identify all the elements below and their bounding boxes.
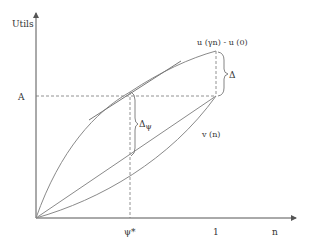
x-tick-one: 1 [213,227,219,237]
upper-curve-label: u (γn) - u (0) [197,38,248,47]
delta-psi-brace [131,92,138,156]
utility-diagram: Utils n A ψ* 1 u (γn) - u (0) v (n) Δ Δψ [0,0,309,245]
y-tick-A: A [17,92,25,102]
x-tick-psi-star: ψ* [124,227,136,237]
x-axis-label: n [272,227,278,237]
chord-line [36,96,216,218]
delta-brace [218,52,228,96]
delta-psi-sub: ψ [146,122,152,131]
lower-curve-label: v (n) [201,130,220,139]
delta-label: Δ [229,70,236,80]
curve-u-gamma-n [36,51,216,218]
y-axis-label: Utils [12,19,34,29]
delta-psi-label: Δψ [139,119,152,131]
